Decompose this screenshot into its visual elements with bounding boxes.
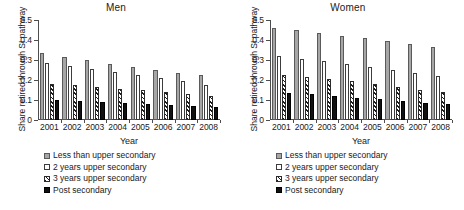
bar bbox=[90, 69, 94, 120]
x-tick-label: 2001 bbox=[38, 122, 61, 132]
bar bbox=[95, 87, 99, 120]
legend-label: 3 years upper secondary bbox=[285, 173, 379, 185]
bar bbox=[141, 90, 145, 120]
legend-item: 2 years upper secondary bbox=[276, 162, 388, 174]
white-square-icon bbox=[44, 164, 50, 170]
legend-item: Post secondary bbox=[276, 185, 388, 197]
bar bbox=[209, 96, 213, 120]
bar bbox=[332, 96, 336, 120]
legend-item: 3 years upper secondary bbox=[44, 173, 156, 185]
x-tick-label: 2006 bbox=[152, 122, 175, 132]
bar-group bbox=[361, 20, 384, 120]
x-tick-labels-men: 20012002200320042005200620072008 bbox=[38, 122, 220, 132]
legend-item: Less than upper secondary bbox=[276, 150, 388, 162]
plot-area-men: 00.10.20.30.40.5 bbox=[38, 20, 220, 120]
bar bbox=[159, 78, 163, 120]
bar-group bbox=[384, 20, 407, 120]
bar bbox=[131, 67, 135, 120]
x-tick-label: 2008 bbox=[429, 122, 452, 132]
legend-label: Post secondary bbox=[53, 185, 112, 197]
bar bbox=[164, 92, 168, 120]
bar bbox=[68, 66, 72, 120]
bar bbox=[204, 85, 208, 120]
bar bbox=[78, 101, 82, 120]
bar bbox=[396, 87, 400, 120]
x-tick bbox=[452, 120, 453, 123]
bar bbox=[327, 79, 331, 120]
bar bbox=[40, 53, 44, 120]
y-tick bbox=[34, 120, 38, 121]
bar bbox=[282, 75, 286, 120]
bar bbox=[378, 99, 382, 120]
bar bbox=[350, 81, 354, 120]
black-square-icon bbox=[276, 187, 282, 193]
y-tick-label: 0.4 bbox=[20, 36, 32, 45]
white-square-icon bbox=[276, 164, 282, 170]
y-tick-label: 0.5 bbox=[20, 16, 32, 25]
bar bbox=[317, 33, 321, 120]
bar bbox=[340, 36, 344, 120]
legend-item: Less than upper secondary bbox=[44, 150, 156, 162]
x-tick-label: 2005 bbox=[361, 122, 384, 132]
x-axis-label-women: Year bbox=[270, 136, 452, 146]
bar bbox=[169, 105, 173, 120]
bar bbox=[73, 85, 77, 120]
bar bbox=[294, 30, 298, 120]
gray-square-icon bbox=[44, 153, 50, 159]
y-tick bbox=[266, 120, 270, 121]
figure-root: Men Share retired through SI pathway 00.… bbox=[0, 0, 464, 210]
x-tick bbox=[220, 120, 221, 123]
y-tick-label: 0.1 bbox=[252, 96, 264, 105]
bar bbox=[214, 107, 218, 120]
bar bbox=[446, 104, 450, 120]
bar-group bbox=[175, 20, 198, 120]
bar-group bbox=[152, 20, 175, 120]
x-tick-label: 2007 bbox=[407, 122, 430, 132]
bar bbox=[199, 75, 203, 120]
y-tick-label: 0.2 bbox=[20, 76, 32, 85]
bar bbox=[153, 70, 157, 120]
x-tick-label: 2002 bbox=[293, 122, 316, 132]
y-tick-label: 0.2 bbox=[252, 76, 264, 85]
x-tick-label: 2005 bbox=[129, 122, 152, 132]
black-square-icon bbox=[44, 187, 50, 193]
bar-group bbox=[407, 20, 430, 120]
bar bbox=[322, 61, 326, 120]
bar-group bbox=[84, 20, 107, 120]
chart-title-men: Men bbox=[0, 2, 232, 13]
bar bbox=[368, 67, 372, 120]
legend-label: 2 years upper secondary bbox=[53, 162, 147, 174]
bar bbox=[385, 41, 389, 120]
bar bbox=[401, 101, 405, 120]
bar bbox=[305, 77, 309, 120]
bar-group bbox=[106, 20, 129, 120]
bar-group bbox=[270, 20, 293, 120]
bar bbox=[55, 100, 59, 120]
y-tick-label: 0.3 bbox=[20, 56, 32, 65]
bar bbox=[123, 103, 127, 120]
chart-panel-women: Women Share retired through SI pathway 0… bbox=[232, 0, 464, 210]
bar bbox=[50, 84, 54, 120]
bar bbox=[108, 64, 112, 120]
legend-label: 2 years upper secondary bbox=[285, 162, 379, 174]
bar-group bbox=[293, 20, 316, 120]
bar bbox=[345, 64, 349, 120]
bar-group bbox=[197, 20, 220, 120]
bar bbox=[191, 106, 195, 120]
hatched-square-icon bbox=[276, 176, 282, 182]
y-tick-label: 0.3 bbox=[252, 56, 264, 65]
bar-group bbox=[61, 20, 84, 120]
bar bbox=[277, 56, 281, 120]
legend-label: 3 years upper secondary bbox=[53, 173, 147, 185]
x-axis-label-men: Year bbox=[38, 136, 220, 146]
bar bbox=[355, 98, 359, 120]
bar bbox=[310, 94, 314, 120]
bar bbox=[441, 92, 445, 120]
bar bbox=[272, 28, 276, 120]
bar bbox=[176, 73, 180, 120]
legend-women: Less than upper secondary2 years upper s… bbox=[276, 150, 388, 196]
legend-label: Less than upper secondary bbox=[53, 150, 156, 162]
gray-square-icon bbox=[276, 153, 282, 159]
x-tick-label: 2006 bbox=[384, 122, 407, 132]
y-tick-label: 0.4 bbox=[252, 36, 264, 45]
